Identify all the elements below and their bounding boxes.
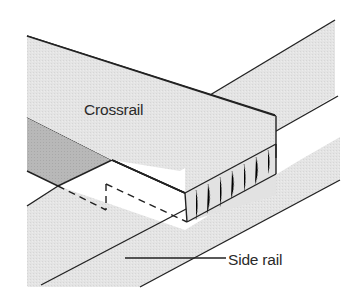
- diagram-canvas: [0, 0, 364, 296]
- joint-diagram: Crossrail Side rail: [0, 0, 364, 296]
- side-rail-label: Side rail: [228, 251, 282, 269]
- crossrail-label: Crossrail: [84, 101, 143, 119]
